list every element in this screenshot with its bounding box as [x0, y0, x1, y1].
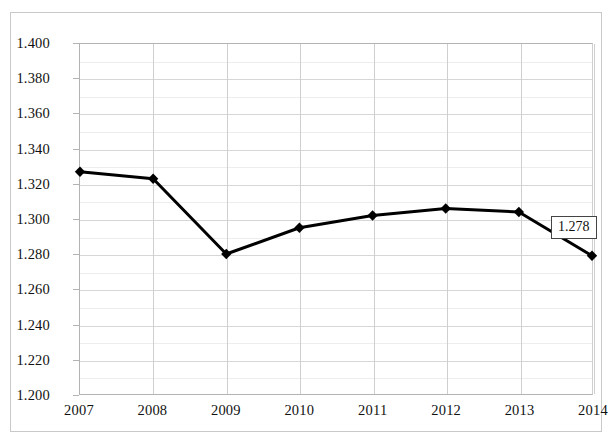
- gridline-horizontal: [80, 255, 592, 256]
- y-axis-tick-label: 1.280: [16, 247, 50, 261]
- y-axis-tick-label: 1.240: [16, 318, 50, 332]
- y-axis-tick-label: 1.380: [16, 71, 50, 85]
- x-axis-tick-label: 2012: [431, 402, 461, 418]
- y-axis-tick-label: 1.300: [16, 212, 50, 226]
- gridline-horizontal-minor: [80, 62, 592, 63]
- data-point-marker: [514, 207, 524, 217]
- y-axis-tick-label: 1.340: [16, 142, 50, 156]
- y-axis-tick-label: 1.260: [16, 282, 50, 296]
- chart-frame: 1.4001.3801.3601.3401.3201.3001.2801.260…: [10, 12, 602, 432]
- gridline-horizontal-minor: [80, 273, 592, 274]
- chart-screenshot: 1.4001.3801.3601.3401.3201.3001.2801.260…: [0, 0, 613, 445]
- y-axis-tick-label: 1.220: [16, 353, 50, 367]
- y-axis-tick-label: 1.200: [16, 388, 50, 402]
- gridline-horizontal-minor: [80, 308, 592, 309]
- gridline-horizontal: [80, 79, 592, 80]
- gridline-horizontal: [80, 185, 592, 186]
- gridline-horizontal-minor: [80, 378, 592, 379]
- gridline-horizontal: [80, 290, 592, 291]
- x-axis-tick-label: 2008: [138, 402, 168, 418]
- gridline-vertical: [153, 44, 154, 394]
- x-axis-tick-label: 2007: [64, 402, 94, 418]
- x-axis-tick-label: 2010: [284, 402, 314, 418]
- gridline-vertical: [227, 44, 228, 394]
- gridline-horizontal-minor: [80, 132, 592, 133]
- gridline-horizontal: [80, 114, 592, 115]
- gridline-horizontal: [80, 220, 592, 221]
- data-label-callout: 1.278: [551, 216, 597, 239]
- gridline-horizontal-minor: [80, 202, 592, 203]
- x-axis-tick-label: 2011: [358, 402, 387, 418]
- gridline-vertical: [374, 44, 375, 394]
- gridline-vertical: [300, 44, 301, 394]
- gridline-horizontal: [80, 361, 592, 362]
- plot-area: [79, 43, 593, 395]
- gridline-horizontal: [80, 150, 592, 151]
- gridline-horizontal-minor: [80, 97, 592, 98]
- data-point-marker: [441, 203, 451, 213]
- x-axis-tick-label: 2013: [505, 402, 535, 418]
- gridline-horizontal-minor: [80, 167, 592, 168]
- y-axis-tick-mark: [73, 395, 79, 396]
- y-axis-tick-label: 1.400: [16, 36, 50, 50]
- caption-sliver: [0, 437, 613, 445]
- y-axis-tick-label: 1.320: [16, 177, 50, 191]
- gridline-horizontal-minor: [80, 238, 592, 239]
- x-axis-tick-label: 2014: [578, 402, 608, 418]
- gridline-vertical: [447, 44, 448, 394]
- y-axis-tick-label: 1.360: [16, 106, 50, 120]
- gridline-vertical: [521, 44, 522, 394]
- x-axis-tick-label: 2009: [211, 402, 241, 418]
- gridline-horizontal: [80, 326, 592, 327]
- gridline-horizontal-minor: [80, 343, 592, 344]
